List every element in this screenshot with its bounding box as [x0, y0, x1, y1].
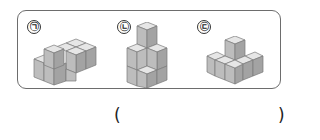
answer-blank[interactable] [125, 105, 275, 125]
answer-open-paren: ( [114, 105, 121, 125]
figure-label-a: ㉠ [27, 20, 41, 34]
cube-figure-a [30, 35, 110, 87]
cube-figure-b [125, 22, 175, 88]
cube-figure-c [205, 36, 267, 86]
figure-label-c: ㉢ [197, 20, 211, 34]
answer-close-paren: ) [278, 105, 285, 125]
